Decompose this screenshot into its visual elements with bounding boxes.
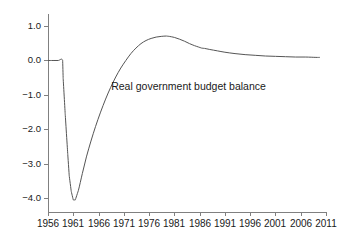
y-tick-marks (44, 27, 48, 199)
x-tick-label: 1996 (239, 218, 262, 229)
x-tick-label: 2011 (315, 218, 337, 229)
x-tick-labels: 1956196119661971197619811986199119962001… (37, 218, 337, 229)
series-annotation-text: Real government budget balance (111, 80, 266, 92)
x-tick-label: 1981 (163, 218, 186, 229)
x-tick-label: 1971 (113, 218, 136, 229)
data-series-layer (48, 36, 320, 200)
x-tick-label: 2006 (290, 218, 313, 229)
x-tick-label: 2001 (264, 218, 287, 229)
y-tick-label: −2.0 (22, 123, 41, 134)
y-tick-label: −4.0 (22, 192, 41, 203)
x-axis-group (48, 212, 327, 216)
y-tick-labels: 1.00.0−1.0−2.0−3.0−4.0 (22, 20, 41, 203)
x-tick-label: 1966 (88, 218, 111, 229)
series-line (48, 36, 320, 200)
y-tick-label: 1.0 (28, 20, 41, 31)
x-tick-label: 1976 (138, 218, 161, 229)
y-tick-label: −1.0 (22, 89, 41, 100)
x-tick-label: 1991 (214, 218, 237, 229)
chart-figure: 1.00.0−1.0−2.0−3.0−4.0 19561961196619711… (0, 0, 340, 239)
series-annotation-layer: Real government budget balance (111, 80, 266, 92)
x-tick-label: 1986 (189, 218, 212, 229)
y-tick-label: 0.0 (28, 54, 41, 65)
y-axis-group (44, 14, 49, 212)
x-tick-label: 1956 (37, 218, 60, 229)
x-tick-label: 1961 (62, 218, 85, 229)
y-tick-label: −3.0 (22, 158, 41, 169)
chart-plot-area: 1.00.0−1.0−2.0−3.0−4.0 19561961196619711… (0, 0, 340, 239)
